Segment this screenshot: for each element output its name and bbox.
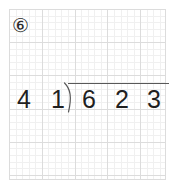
dividend-digit-ones: 3: [141, 84, 167, 114]
grid-bottom-edge: [9, 179, 166, 180]
worksheet-canvas: ⑥ 4 1 6 2 3: [0, 0, 174, 190]
problem-number-badge: ⑥: [12, 14, 36, 38]
divisor-digit-tens: 4: [11, 84, 37, 114]
long-division-expression: 4 1 6 2 3: [0, 40, 174, 76]
dividend-digit-tens: 2: [109, 84, 135, 114]
division-bracket-icon: [63, 81, 75, 114]
dividend-digit-hundreds: 6: [76, 84, 102, 114]
